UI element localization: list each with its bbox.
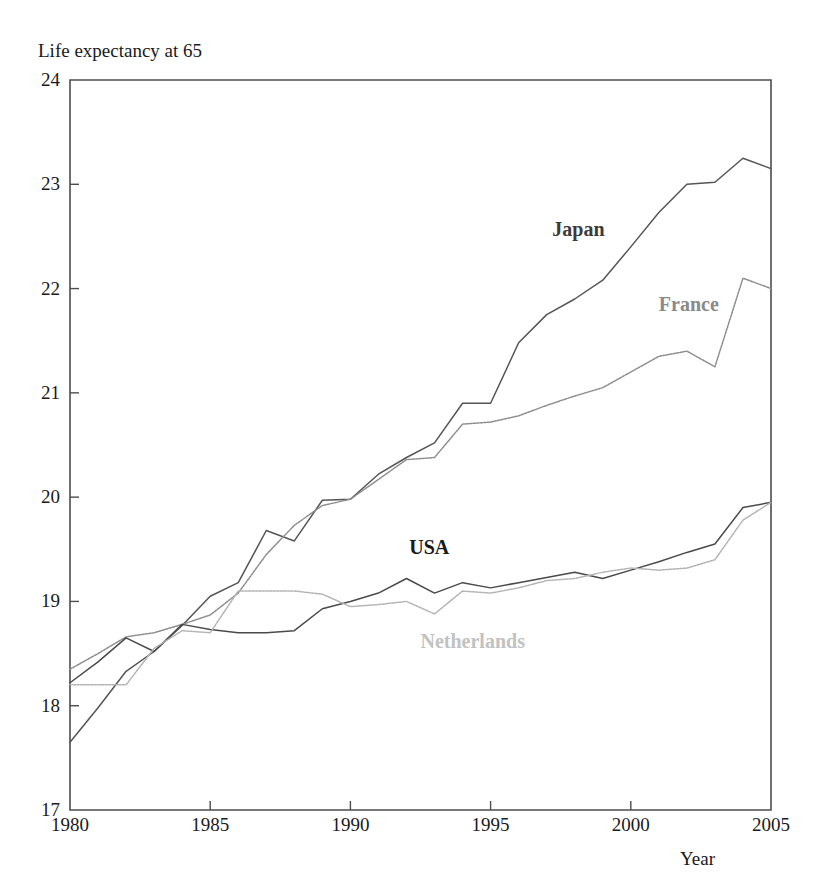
y-tick-label: 22 xyxy=(26,278,60,300)
chart-figure: Life expectancy at 65 Year 1718192021222… xyxy=(0,0,827,896)
y-tick-label: 24 xyxy=(26,69,60,91)
y-tick-label: 21 xyxy=(26,382,60,404)
plot-canvas xyxy=(0,0,827,896)
data-series-group xyxy=(70,158,771,742)
y-tick-label: 23 xyxy=(26,173,60,195)
x-tick-label: 1985 xyxy=(175,814,245,836)
y-tick-label: 20 xyxy=(26,486,60,508)
series-line-usa xyxy=(70,502,771,682)
series-label-japan: Japan xyxy=(552,218,604,241)
y-tick-label: 19 xyxy=(26,590,60,612)
x-tick-label: 2005 xyxy=(736,814,806,836)
series-label-france: France xyxy=(659,293,719,316)
series-label-usa: USA xyxy=(409,536,449,559)
x-tick-label: 1980 xyxy=(35,814,105,836)
x-tick-label: 1995 xyxy=(456,814,526,836)
series-line-netherlands xyxy=(70,502,771,685)
x-tick-label: 1990 xyxy=(315,814,385,836)
y-tick-label: 18 xyxy=(26,695,60,717)
series-line-japan xyxy=(70,158,771,742)
axis-ticks xyxy=(70,184,631,810)
x-tick-label: 2000 xyxy=(596,814,666,836)
series-line-france xyxy=(70,278,771,669)
series-label-netherlands: Netherlands xyxy=(421,630,525,653)
plot-frame xyxy=(70,80,771,810)
